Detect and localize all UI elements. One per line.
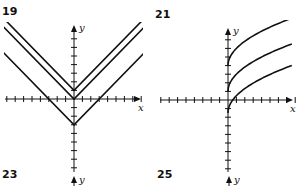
problem-number-21: 21 — [155, 8, 170, 21]
y-axis-arrow-icon — [71, 25, 77, 32]
problem-number-23: 23 — [2, 168, 17, 181]
y-axis-label: y — [232, 25, 239, 36]
y-axis-label: y — [233, 174, 240, 185]
problem-number-25: 25 — [157, 168, 172, 181]
x-axis-label: x — [138, 102, 144, 113]
problem-number-19: 19 — [2, 5, 17, 18]
y-axis-label: y — [78, 174, 85, 185]
x-axis-label: x — [290, 103, 296, 114]
y-axis-arrow-icon — [225, 28, 231, 35]
graph-23-partial: y — [71, 174, 85, 186]
series-line-2 — [0, 0, 175, 99]
series-line-2 — [228, 44, 292, 91]
y-axis-label: y — [78, 22, 85, 33]
graph-19: xy — [0, 0, 175, 172]
series-line-3 — [0, 22, 175, 125]
graph-21: xy — [160, 18, 296, 172]
figure-canvas: 19 21 23 25 xy xy y y — [0, 0, 297, 186]
graph-25-partial: y — [226, 174, 240, 186]
